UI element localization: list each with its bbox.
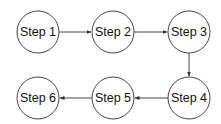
flow-diagram: Step 1 Step 2 Step 3 Step 4 Step 5 Step … — [0, 0, 221, 124]
node-step2: Step 2 — [92, 11, 134, 53]
node-step1: Step 1 — [17, 11, 59, 53]
node-label: Step 1 — [20, 25, 56, 39]
node-label: Step 3 — [171, 25, 207, 39]
node-label: Step 2 — [95, 25, 131, 39]
node-label: Step 5 — [95, 91, 131, 105]
node-label: Step 4 — [171, 91, 207, 105]
node-label: Step 6 — [20, 91, 56, 105]
node-step3: Step 3 — [168, 11, 210, 53]
node-step4: Step 4 — [168, 77, 210, 119]
node-step6: Step 6 — [17, 77, 59, 119]
node-step5: Step 5 — [92, 77, 134, 119]
